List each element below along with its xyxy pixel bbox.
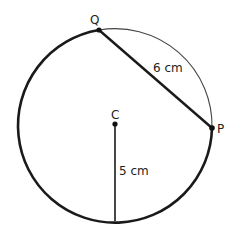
point-q bbox=[96, 27, 101, 32]
label-p: P bbox=[217, 122, 224, 136]
point-p bbox=[209, 125, 215, 131]
radius-length-label: 5 cm bbox=[119, 164, 149, 178]
label-c: C bbox=[111, 108, 119, 122]
point-c bbox=[112, 121, 117, 126]
circle-diagram: Q P C 6 cm 5 cm bbox=[0, 0, 237, 234]
label-q: Q bbox=[90, 13, 99, 27]
chord-length-label: 6 cm bbox=[153, 61, 183, 75]
